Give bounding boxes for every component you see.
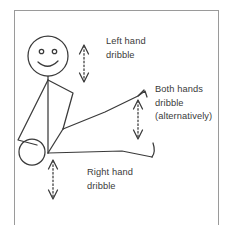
label-left-hand-dribble: Left hand dribble: [106, 35, 146, 62]
label-right-hand-line2: dribble: [87, 180, 133, 194]
diagram-canvas: Left hand dribble Both hands dribble (al…: [0, 0, 230, 225]
label-left-hand-line1: Left hand: [106, 35, 146, 49]
label-both-hands-line3: (alternatively): [155, 110, 212, 124]
label-left-hand-line2: dribble: [106, 49, 146, 63]
label-both-hands-line2: dribble: [155, 97, 212, 111]
label-both-hands-dribble: Both hands dribble (alternatively): [155, 83, 212, 124]
label-both-hands-line1: Both hands: [155, 83, 212, 97]
label-right-hand-line1: Right hand: [87, 166, 133, 180]
label-right-hand-dribble: Right hand dribble: [87, 166, 133, 193]
